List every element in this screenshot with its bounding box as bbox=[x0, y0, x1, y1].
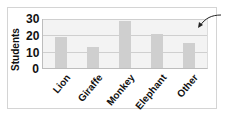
plot-area bbox=[42, 19, 208, 69]
annotation-arrow-icon bbox=[196, 12, 222, 32]
y-tick-20: 20 bbox=[26, 30, 39, 42]
y-axis-label: Students bbox=[10, 25, 21, 75]
bar-lion bbox=[55, 37, 67, 68]
bar-giraffe bbox=[87, 47, 99, 68]
gridline-30 bbox=[43, 19, 207, 20]
y-tick-0: 0 bbox=[26, 63, 39, 75]
bar-elephant bbox=[151, 34, 163, 68]
bar-monkey bbox=[119, 21, 131, 68]
y-tick-10: 10 bbox=[26, 47, 39, 59]
bar-other bbox=[183, 43, 195, 68]
y-tick-30: 30 bbox=[26, 13, 39, 25]
